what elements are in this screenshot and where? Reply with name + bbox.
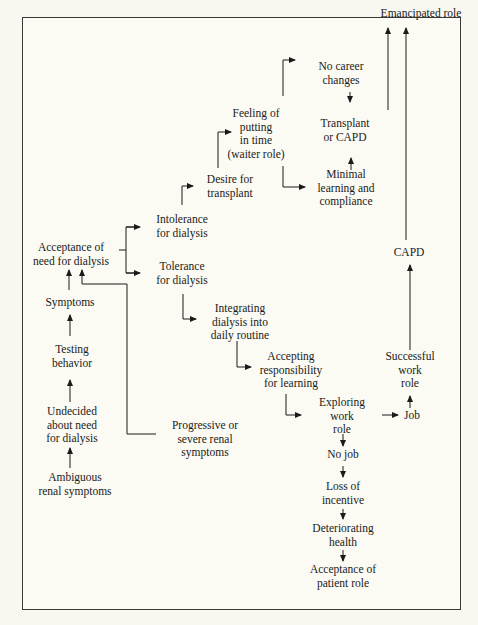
node-integrating-dialysis: Integratingdialysis intodaily routine — [211, 302, 269, 343]
node-label-line: Undecided — [46, 405, 97, 419]
node-label-line: responsibility — [260, 364, 323, 378]
node-label-line: No career — [318, 60, 363, 74]
edge-feeling-nocareer — [283, 60, 295, 96]
node-label-line: patient role — [310, 577, 376, 591]
node-label-line: Successful — [385, 350, 434, 364]
edge-feeling-minimal — [283, 166, 305, 187]
node-loss-of-incentive: Loss ofincentive — [322, 480, 364, 507]
node-label-line: Accepting — [260, 350, 323, 364]
node-feeling-of-putting-in-time: Feeling ofputtingin time(waiter role) — [227, 107, 284, 161]
node-testing-behavior: Testingbehavior — [52, 343, 92, 370]
node-label-line: dialysis into — [211, 316, 269, 330]
node-label-line: (waiter role) — [227, 148, 284, 162]
node-progressive-renal-symptoms: Progressive orsevere renalsymptoms — [172, 419, 238, 460]
node-label-line: CAPD — [394, 246, 425, 260]
node-desire-for-transplant: Desire fortransplant — [207, 173, 253, 200]
node-transplant-or-capd: Transplantor CAPD — [321, 117, 370, 144]
edge-integrating-accepting — [237, 341, 251, 367]
node-label-line: Testing — [52, 343, 92, 357]
node-label-line: role — [319, 423, 365, 437]
node-label-line: for dialysis — [156, 227, 208, 241]
node-label-line: Feeling of — [227, 107, 284, 121]
node-label-line: for dialysis — [46, 432, 97, 446]
node-label-line: need for dialysis — [33, 255, 109, 269]
node-label-line: Job — [404, 409, 420, 423]
edge-accepting-exploring — [286, 394, 301, 415]
node-label-line: or CAPD — [321, 131, 370, 145]
node-symptoms: Symptoms — [45, 296, 94, 310]
node-label-line: Progressive or — [172, 419, 238, 433]
edge-tolerance-integrating — [183, 294, 196, 319]
node-label-line: in time — [227, 134, 284, 148]
node-label-line: Desire for — [207, 173, 253, 187]
node-label-line: daily routine — [211, 329, 269, 343]
node-label-line: about need — [46, 419, 97, 433]
node-label-line: Deteriorating — [312, 522, 373, 536]
node-accepting-responsibility: Acceptingresponsibilityfor learning — [260, 350, 323, 391]
node-label-line: Exploring — [319, 396, 365, 410]
node-label-line: health — [312, 536, 373, 550]
node-ambiguous-renal-symptoms: Ambiguousrenal symptoms — [38, 471, 111, 498]
node-label-line: No job — [327, 448, 359, 462]
node-label-line: work — [385, 364, 434, 378]
node-label-line: behavior — [52, 357, 92, 371]
node-successful-work-role: Successfulworkrole — [385, 350, 434, 391]
node-label-line: role — [385, 377, 434, 391]
node-label-line: symptoms — [172, 446, 238, 460]
node-label-line: Transplant — [321, 117, 370, 131]
node-acceptance-of-need: Acceptance ofneed for dialysis — [33, 241, 109, 268]
edge-intolerance-desire — [182, 186, 193, 205]
node-emancipated-role: Emancipated role — [381, 7, 462, 21]
node-label-line: compliance — [317, 195, 374, 209]
node-label-line: work — [319, 410, 365, 424]
node-label-line: learning and — [317, 182, 374, 196]
node-deteriorating-health: Deterioratinghealth — [312, 522, 373, 549]
node-label-line: Acceptance of — [310, 563, 376, 577]
node-exploring-work-role: Exploringworkrole — [319, 396, 365, 437]
node-label-line: incentive — [322, 494, 364, 508]
edge-acceptance-intolerance — [126, 227, 139, 273]
node-label-line: Ambiguous — [38, 471, 111, 485]
node-label-line: Integrating — [211, 302, 269, 316]
node-label-line: transplant — [207, 187, 253, 201]
node-label-line: Symptoms — [45, 296, 94, 310]
node-label-line: Intolerance — [156, 213, 208, 227]
node-label-line: Tolerance — [156, 260, 207, 274]
node-minimal-learning: Minimallearning andcompliance — [317, 168, 374, 209]
node-acceptance-of-patient-role: Acceptance ofpatient role — [310, 563, 376, 590]
node-label-line: for learning — [260, 377, 323, 391]
node-job: Job — [404, 409, 420, 423]
node-label-line: for dialysis — [156, 274, 207, 288]
node-label-line: severe renal — [172, 433, 238, 447]
node-label-line: changes — [318, 74, 363, 88]
node-intolerance-for-dialysis: Intolerancefor dialysis — [156, 213, 208, 240]
node-capd: CAPD — [394, 246, 425, 260]
node-undecided: Undecidedabout needfor dialysis — [46, 405, 97, 446]
node-no-career-changes: No careerchanges — [318, 60, 363, 87]
node-label-line: renal symptoms — [38, 485, 111, 499]
node-label-line: Emancipated role — [381, 7, 462, 21]
node-label-line: putting — [227, 121, 284, 135]
node-no-job: No job — [327, 448, 359, 462]
node-label-line: Minimal — [317, 168, 374, 182]
node-label-line: Loss of — [322, 480, 364, 494]
node-tolerance-for-dialysis: Tolerancefor dialysis — [156, 260, 207, 287]
node-label-line: Acceptance of — [33, 241, 109, 255]
